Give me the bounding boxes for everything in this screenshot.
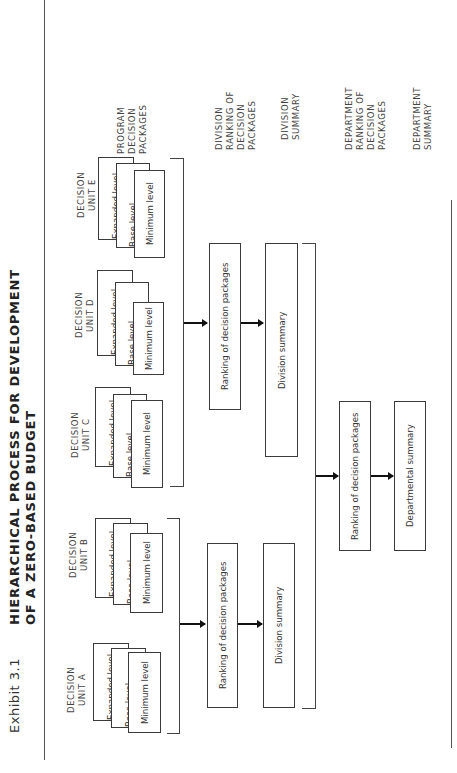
arrow-icon: [241, 322, 263, 324]
division-summary-label: DIVISIONSUMMARY: [278, 75, 304, 140]
department-ranking-label: DEPARTMENTRANKING OFDECISIONPACKAGES: [342, 60, 390, 150]
division-1-bracket: [167, 518, 180, 734]
unit-b-minimum-level: Minimum level: [130, 533, 163, 613]
arrow-icon: [180, 623, 205, 625]
page-title: HIERARCHICAL PROCESS FOR DEVELOPMENTOF A…: [4, 270, 42, 625]
division-ranking-label: DIVISIONRANKING OFDECISIONPACKAGES: [212, 60, 260, 150]
arrow-icon: [238, 623, 262, 625]
arrow-icon: [316, 475, 338, 477]
decision-unit-c-label: DECISIONUNIT C: [68, 400, 94, 470]
decision-unit-e-label: DECISIONUNIT E: [74, 160, 100, 230]
unit-d-minimum-level: Minimum level: [133, 302, 164, 375]
decision-unit-b-label: DECISIONUNIT B: [66, 520, 92, 590]
department-summary-label: DEPARTMENTSUMMARY: [410, 60, 436, 150]
department-ranking-box: Ranking of decision packages: [339, 401, 371, 551]
department-bracket: [302, 243, 316, 709]
program-decision-packages-label: PROGRAMDECISIONPACKAGES: [114, 60, 150, 154]
unit-e-minimum-level: Minimum level: [134, 170, 165, 258]
division-1-summary-box: Division summary: [263, 543, 295, 708]
title-line-1: HIERARCHICAL PROCESS FOR DEVELOPMENT: [7, 269, 22, 625]
header-rule: [44, 0, 45, 760]
unit-a-minimum-level: Minimum level: [128, 652, 161, 733]
division-2-summary-box: Division summary: [265, 243, 298, 457]
arrow-icon: [184, 322, 207, 324]
division-2-ranking-box: Ranking of decision packages: [209, 243, 241, 410]
arrow-icon: [371, 475, 393, 477]
department-summary-box: Departmental summary: [394, 401, 426, 551]
exhibit-label: Exhibit 3.1: [2, 640, 26, 750]
unit-c-minimum-level: Minimum level: [131, 400, 163, 488]
division-1-ranking-box: Ranking of decision packages: [207, 543, 238, 708]
decision-unit-a-label: DECISIONUNIT A: [64, 655, 90, 725]
title-line-2: OF A ZERO-BASED BUDGET: [23, 410, 38, 625]
footer-rule: [451, 200, 452, 748]
division-2-bracket: [170, 158, 184, 487]
decision-unit-d-label: DECISIONUNIT D: [72, 280, 98, 350]
